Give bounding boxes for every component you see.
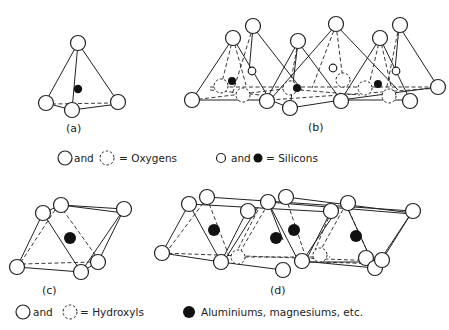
hydroxyl-atom: [324, 204, 339, 219]
oxygen-atom: [334, 94, 349, 109]
cation-atom: [208, 224, 220, 236]
legend-text: and: [74, 152, 94, 164]
oxygen-atom: [111, 95, 126, 110]
hidden-oxygen-atom: [382, 89, 396, 103]
hydroxyl-atom: [295, 254, 310, 269]
cation-atom: [64, 232, 76, 244]
oxygen-atom: [246, 19, 261, 34]
hydroxyl-atom: [91, 255, 106, 270]
legend-text: Aluminiums, magnesiums, etc.: [201, 306, 363, 318]
oxygen-atom: [291, 34, 306, 49]
legend-oxygens: and = Oxygens: [58, 151, 177, 165]
hidden-oxygen-atom: [214, 79, 228, 93]
silicon-open-legend-icon: [217, 154, 226, 163]
oxygen-legend-icon: [58, 151, 72, 165]
hydroxyl-atom: [406, 204, 421, 219]
panel-b-label: (b): [308, 121, 324, 134]
hydroxyl-atom: [375, 253, 390, 268]
panel-d-label: (d): [270, 284, 286, 297]
hidden-oxygen-atom: [358, 81, 372, 95]
hydroxyl-atom: [36, 206, 51, 221]
legend-text: = Silicons: [266, 152, 318, 164]
legend-cations: Aluminiums, magnesiums, etc.: [183, 306, 363, 318]
silicon-atom: [374, 80, 382, 88]
hydroxyl-atom: [155, 246, 170, 261]
hidden-hydroxyl-legend-icon: [63, 305, 77, 319]
silicon-atom-open: [248, 67, 256, 75]
legend-hydroxyls: and = Hydroxyls: [16, 305, 144, 319]
silicon-atom: [228, 77, 236, 85]
panel-c-label: (c): [42, 284, 57, 297]
panel-c-octahedron: (c): [10, 198, 132, 298]
hydroxyl-atom: [279, 190, 294, 205]
panel-b-tetrahedral-sheet: (b): [185, 17, 446, 135]
silicon-atom: [74, 85, 82, 93]
cation-legend-icon: [183, 306, 195, 318]
hydroxyl-atom: [214, 255, 229, 270]
panel-d-octahedral-sheet: (d): [155, 190, 421, 298]
hydroxyl-atom: [261, 195, 276, 210]
legend-text: = Oxygens: [119, 152, 177, 164]
hydroxyl-atom: [182, 197, 197, 212]
cation-atom: [350, 230, 362, 242]
hydroxyl-atom: [276, 263, 291, 278]
legend-text: = Hydroxyls: [80, 306, 144, 318]
silicon-filled-legend-icon: [254, 154, 263, 163]
oxygen-atom: [283, 101, 298, 116]
oxygen-atom: [226, 31, 241, 46]
hidden-oxygen-atom: [236, 88, 250, 102]
oxygen-atom: [393, 18, 408, 33]
oxygen-atom: [260, 94, 275, 109]
legend-text: and: [231, 152, 251, 164]
hidden-oxygen-legend-icon: [100, 151, 114, 165]
oxygen-atom: [39, 96, 54, 111]
oxygen-atom: [329, 17, 344, 32]
cation-atom: [270, 232, 282, 244]
hydroxyl-atom: [54, 198, 69, 213]
panel-a-tetrahedron: (a): [39, 36, 126, 136]
hidden-hydroxyl-atom: [231, 250, 245, 264]
hydroxyl-legend-icon: [16, 305, 30, 319]
clay-structure-diagram: (a): [0, 0, 449, 330]
hidden-hydroxyl-atom: [313, 248, 327, 262]
cation-atom: [288, 224, 300, 236]
oxygen-atom: [373, 31, 388, 46]
legend-text: and: [33, 306, 53, 318]
hidden-oxygen-atom: [336, 73, 350, 87]
oxygen-atom: [431, 80, 446, 95]
oxygen-atom: [185, 93, 200, 108]
hydroxyl-atom: [74, 265, 89, 280]
silicon-atom: [293, 84, 301, 92]
oxygen-atom: [65, 103, 80, 118]
hydroxyl-atom: [10, 260, 25, 275]
silicon-atom-open: [329, 64, 337, 72]
hydroxyl-atom: [200, 190, 215, 205]
oxygen-atom: [403, 94, 418, 109]
hydroxyl-atom: [241, 204, 256, 219]
oxygen-atom: [71, 36, 86, 51]
hydroxyl-atom: [117, 202, 132, 217]
hydroxyl-atom: [341, 196, 356, 211]
silicon-atom-open: [392, 67, 400, 75]
panel-a-label: (a): [66, 122, 81, 135]
legend-silicons: and = Silicons: [217, 152, 318, 164]
